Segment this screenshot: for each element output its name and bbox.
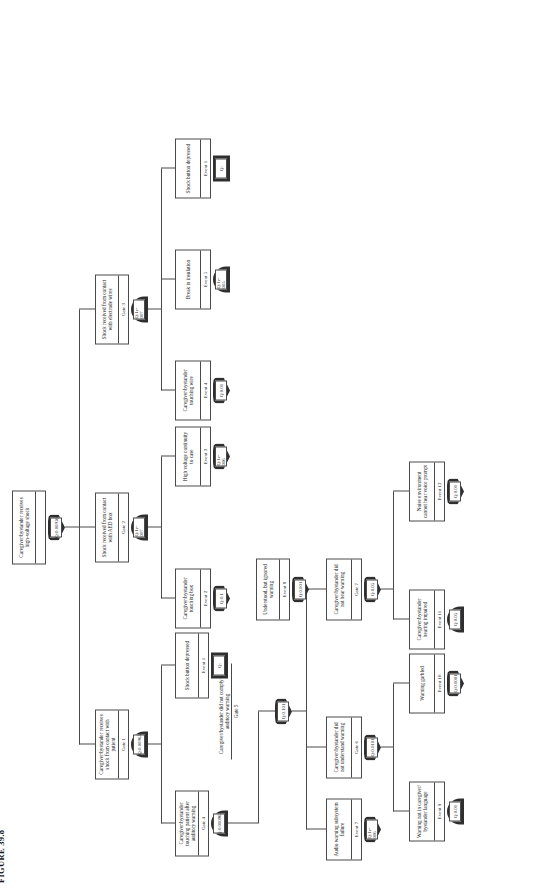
node-gate1[interactable]: Caregiver/bystander receives shock from … [95, 709, 129, 779]
event-12-symbol[interactable]: Q:0.01 [447, 478, 464, 504]
node-event7-id: Event 7 [352, 799, 361, 859]
gate-root[interactable]: Q:0.00956 [48, 514, 65, 540]
node-event1-a[interactable]: Shock button depressed Event 1 [175, 632, 209, 698]
node-event5[interactable]: Break in insulation Event 5 [175, 249, 211, 309]
event-2-symbol[interactable]: Q:0.1 [213, 585, 230, 611]
node-event10[interactable]: Warning garbled Event 10 [409, 653, 445, 713]
node-gate4[interactable]: Caregiver/bystander touching patient aft… [175, 790, 209, 856]
event-3-probability: Q:1e-006 [215, 446, 227, 466]
connector [393, 490, 409, 491]
event-5-symbol[interactable]: Q:1e-005 [213, 266, 230, 292]
node-event3[interactable]: High voltage continuity to case Event 3 [175, 426, 211, 486]
figure-caption: FIGURE 39.8 [0, 830, 6, 883]
connector [306, 828, 326, 829]
gate-6-probability: Q:0.0101 [366, 737, 378, 757]
connector [381, 746, 393, 747]
node-gate4-description: Caregiver/bystander touching patient aft… [176, 791, 199, 855]
event-9-symbol[interactable]: Q:0.01 [447, 798, 464, 824]
node-event4[interactable]: Caregiver/bystander touching wire Event … [175, 360, 211, 420]
node-gate6[interactable]: Caregiver/bystander did not understand w… [326, 716, 362, 778]
connector [161, 456, 162, 598]
gate-4[interactable]: Q:0.000965 [211, 810, 228, 836]
event-7-symbol[interactable]: Q:1e-006 [364, 816, 381, 842]
node-event8-id: Event 8 [280, 559, 289, 619]
event-8-symbol[interactable]: Q:0.001 [292, 576, 309, 602]
gate-2-probability: Q:1e-007 [133, 517, 145, 537]
connector [79, 743, 95, 744]
gate-1-probability: Q:0.00965 [133, 734, 145, 754]
event-9-probability: Q:0.01 [449, 801, 461, 821]
connector [161, 455, 175, 456]
connector [161, 665, 162, 823]
node-gate7[interactable]: Caregiver/bystander did not hear warning… [326, 558, 362, 620]
node-gate5-description: Caregiver/bystander did not comply with … [218, 668, 230, 753]
connector [393, 810, 409, 811]
connector [393, 491, 394, 619]
node-event7-description: Audio warning subsystem failure [327, 799, 352, 859]
node-event11[interactable]: Caregiver/bystander hearing impaired Eve… [409, 589, 445, 649]
node-root[interactable]: Caregiver/bystander receives high-voltag… [12, 490, 46, 564]
node-event3-id: Event 3 [201, 427, 210, 485]
event-2-probability: Q:0.1 [215, 588, 227, 608]
node-event12-description: Noise environment cannot hear voice prom… [410, 462, 435, 520]
node-event4-description: Caregiver/bystander touching wire [176, 361, 201, 419]
node-root-id [36, 491, 45, 563]
node-event10-description: Warning garbled [410, 654, 435, 712]
node-gate2[interactable]: Shock received from contact with AED box… [95, 492, 129, 562]
connector [393, 618, 409, 619]
node-event9[interactable]: Warning not in caregiver/ bystander lang… [409, 781, 445, 841]
event-4-probability: Q:0.01 [215, 380, 227, 400]
node-event12-id: Event 12 [435, 462, 444, 520]
connector [65, 526, 79, 527]
gate-5[interactable]: Q:0.101 [275, 698, 292, 724]
node-event5-id: Event 5 [201, 250, 210, 308]
connector [148, 526, 161, 527]
connector [381, 588, 393, 589]
gate-6[interactable]: Q:0.0101 [364, 734, 381, 760]
node-gate7-description: Caregiver/bystander did not hear warning [327, 559, 352, 619]
node-gate3[interactable]: Shock received from contact with electro… [95, 274, 129, 344]
node-event4-id: Event 4 [201, 361, 210, 419]
connector [161, 167, 175, 168]
node-event1-a-id: Event 1 [199, 633, 208, 697]
connector [79, 526, 95, 527]
event-10-symbol[interactable]: Q:0.0001 [447, 670, 464, 696]
node-event8[interactable]: Understood, but ignored warning Event 8 [256, 558, 290, 620]
fault-tree-diagram: Caregiver/bystander receives high-voltag… [0, 0, 538, 889]
event-1-b-symbol[interactable]: Q: [213, 155, 230, 181]
node-event12[interactable]: Noise environment cannot hear voice prom… [409, 461, 445, 521]
connector [258, 711, 259, 823]
connector [161, 278, 175, 279]
event-1-b-probability: Q: [215, 158, 227, 178]
node-event3-description: High voltage continuity to case [176, 427, 201, 485]
event-4-symbol[interactable]: Q:0.01 [213, 377, 230, 403]
node-event1-b[interactable]: Shock button depressed Event 1 [175, 138, 211, 198]
event-12-probability: Q:0.01 [449, 481, 461, 501]
node-event1-b-description: Shock button depressed [176, 139, 201, 197]
node-gate2-id: Gate 2 [119, 493, 128, 561]
gate-1[interactable]: Q:0.00965 [131, 731, 148, 757]
node-event2[interactable]: Caregiver/bystander touching box Event 2 [175, 568, 211, 628]
connector [306, 588, 326, 589]
gate-7[interactable]: Q:0.05 [364, 576, 381, 602]
node-event2-id: Event 2 [201, 569, 210, 627]
node-gate3-description: Shock received from contact with electro… [96, 275, 119, 343]
event-3-symbol[interactable]: Q:1e-006 [213, 443, 230, 469]
gate-3[interactable]: Q:1e-007 [131, 296, 148, 322]
rotated-figure-container: Caregiver/bystander receives high-voltag… [0, 0, 538, 889]
node-root-description: Caregiver/bystander receives high-voltag… [13, 491, 36, 563]
node-event2-description: Caregiver/bystander touching box [176, 569, 201, 627]
figure-page: Caregiver/bystander receives high-voltag… [0, 0, 538, 889]
connector [393, 682, 409, 683]
gate-2[interactable]: Q:1e-007 [131, 514, 148, 540]
event-11-symbol[interactable]: Q:0.05 [447, 606, 464, 632]
connector [258, 710, 275, 711]
node-event1-a-description: Shock button depressed [176, 633, 199, 697]
node-event5-description: Break in insulation [176, 250, 201, 308]
node-gate7-id: Gate 7 [352, 559, 361, 619]
node-gate4-id: Gate 4 [199, 791, 208, 855]
node-gate5[interactable]: Caregiver/bystander did not comply with … [218, 663, 240, 759]
connector [161, 664, 175, 665]
node-event7[interactable]: Audio warning subsystem failure Event 7 [326, 798, 362, 860]
connector [148, 743, 161, 744]
